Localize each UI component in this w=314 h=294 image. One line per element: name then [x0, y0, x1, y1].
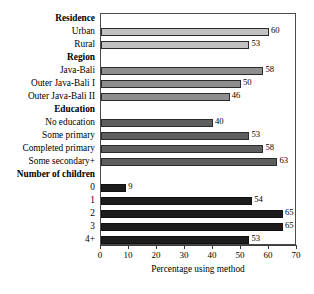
category-label: Some primary [42, 130, 95, 140]
category-label: 2 [90, 208, 95, 218]
bar-value-label: 65 [285, 208, 294, 217]
category-label: No education [45, 117, 95, 127]
bar [101, 132, 249, 140]
bar-value-label: 63 [279, 156, 288, 165]
bar [101, 158, 277, 166]
x-tick [156, 245, 157, 249]
category-label: 3 [90, 221, 95, 231]
bar-value-label: 58 [265, 143, 274, 152]
bar-value-label: 40 [215, 117, 224, 126]
bar-value-label: 54 [254, 195, 263, 204]
x-tick-label: 0 [88, 250, 112, 260]
category-label: Outer Java-Bali I [31, 78, 95, 88]
x-tick-label: 50 [228, 250, 252, 260]
x-tick [128, 245, 129, 249]
x-tick-label: 20 [144, 250, 168, 260]
x-tick-label: 10 [116, 250, 140, 260]
category-label: 0 [90, 182, 95, 192]
x-tick [240, 245, 241, 249]
bar-value-label: 60 [271, 26, 280, 35]
x-tick [100, 245, 101, 249]
bar-value-label: 65 [285, 221, 294, 230]
group-header-number-of-children: Number of children [17, 169, 95, 179]
bar [101, 28, 269, 36]
x-tick [268, 245, 269, 249]
bar [101, 67, 263, 75]
x-tick-label: 60 [256, 250, 280, 260]
category-label: Java-Bali [60, 65, 95, 75]
bar-value-label: 50 [243, 78, 252, 87]
bar [101, 184, 126, 192]
bar [101, 41, 249, 49]
bar [101, 119, 213, 127]
category-label: 4+ [85, 234, 95, 244]
bar-value-label: 53 [251, 130, 260, 139]
bar-value-label: 53 [251, 234, 260, 243]
plot-area [100, 13, 296, 245]
x-tick-label: 70 [284, 250, 308, 260]
bar [101, 80, 241, 88]
x-tick-label: 40 [200, 250, 224, 260]
bar-value-label: 53 [251, 39, 260, 48]
x-axis-title: Percentage using method [100, 264, 296, 275]
x-tick [184, 245, 185, 249]
bar-value-label: 46 [232, 91, 241, 100]
bar [101, 145, 263, 153]
bar-value-label: 9 [128, 182, 132, 191]
bar [101, 197, 252, 205]
category-label: Urban [72, 26, 95, 36]
x-tick [296, 245, 297, 249]
bar [101, 236, 249, 244]
bar [101, 210, 283, 218]
bar [101, 93, 230, 101]
bar-value-label: 58 [265, 65, 274, 74]
category-label: Rural [74, 39, 95, 49]
category-label: Completed primary [22, 143, 95, 153]
category-label: 1 [90, 195, 95, 205]
bar [101, 223, 283, 231]
category-label: Some secondary+ [29, 156, 95, 166]
category-label: Outer Java-Bali II [28, 91, 95, 101]
category-axis-labels: ResidenceUrbanRuralRegionJava-BaliOuter … [0, 0, 98, 252]
x-axis-line [100, 245, 296, 246]
horizontal-bar-chart: ResidenceUrbanRuralRegionJava-BaliOuter … [0, 0, 314, 294]
x-tick [212, 245, 213, 249]
x-tick-label: 30 [172, 250, 196, 260]
group-header-education: Education [54, 104, 95, 114]
group-header-region: Region [67, 52, 95, 62]
group-header-residence: Residence [55, 13, 95, 23]
